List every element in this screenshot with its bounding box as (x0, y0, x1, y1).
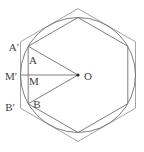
label-M-prime: M′ (5, 70, 17, 82)
label-A: A (29, 54, 37, 66)
label-B: B (33, 98, 40, 110)
label-M: M (29, 75, 39, 87)
label-A-prime: A′ (9, 41, 19, 53)
center-dot (76, 73, 79, 76)
label-B-prime: B′ (5, 101, 15, 113)
label-O: O (84, 70, 92, 82)
geometry-figure: A′AM′MB′BO (0, 0, 144, 152)
hexagon-circle-diagram: A′AM′MB′BO (0, 0, 144, 152)
